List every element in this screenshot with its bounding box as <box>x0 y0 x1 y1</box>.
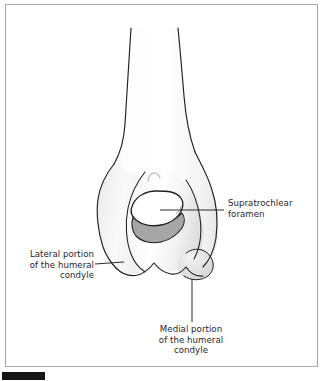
label-supratrochlear-line1: Supratrochlear <box>228 198 292 209</box>
label-medial-condyle: Medial portion of the humeral condyle <box>139 324 243 356</box>
label-supratrochlear-line2: foramen <box>228 209 292 220</box>
label-lateral-line1: Lateral portion <box>12 249 94 260</box>
label-medial-line1: Medial portion <box>139 324 243 335</box>
label-medial-line3: condyle <box>139 345 243 356</box>
label-supratrochlear-foramen: Supratrochlear foramen <box>228 198 292 219</box>
label-lateral-condyle: Lateral portion of the humeral condyle <box>12 249 94 281</box>
label-medial-line2: of the humeral <box>139 335 243 346</box>
bottom-marker-bar <box>2 372 45 380</box>
humerus-bone-group <box>97 28 218 280</box>
label-lateral-line3: condyle <box>12 270 94 281</box>
label-lateral-line2: of the humeral <box>12 260 94 271</box>
